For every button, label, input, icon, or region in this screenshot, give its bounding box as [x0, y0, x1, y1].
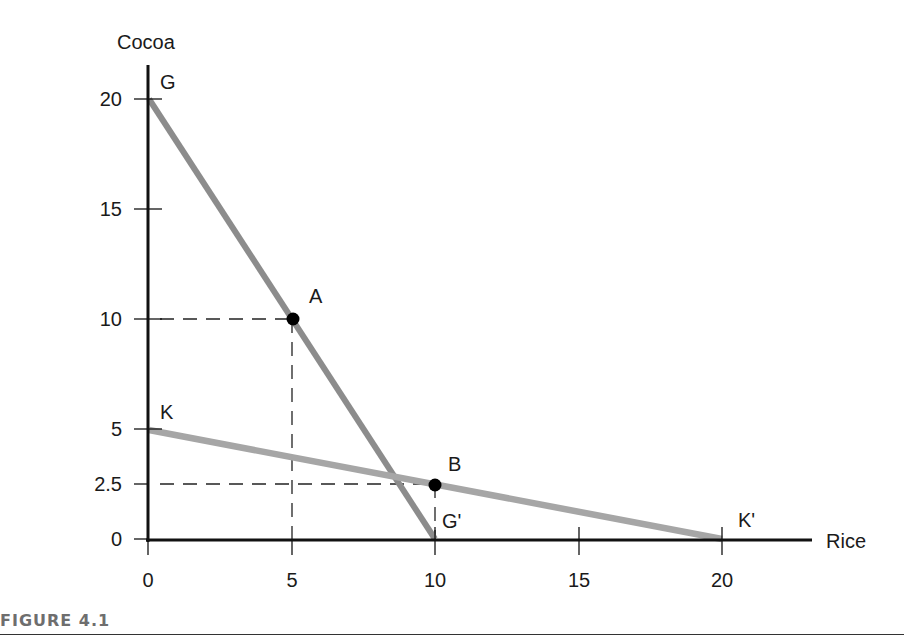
label-g-prime: G'	[442, 510, 461, 532]
label-k-prime: K'	[738, 509, 755, 531]
x-axis-title: Rice	[826, 530, 866, 552]
label-k: K	[160, 401, 174, 423]
caption-rule	[0, 634, 904, 635]
y-tick-label: 10	[100, 308, 122, 330]
x-tick-label: 10	[424, 569, 446, 591]
figure-caption: FIGURE 4.1	[0, 611, 110, 630]
point-b-label: B	[448, 453, 461, 475]
label-g: G	[160, 71, 176, 93]
y-tick-label: 2.5	[94, 473, 122, 495]
y-tick-label: 15	[100, 198, 122, 220]
x-tick-label: 0	[142, 569, 153, 591]
y-tick-label: 20	[100, 88, 122, 110]
guide-lines	[160, 319, 435, 539]
y-axis-title: Cocoa	[117, 31, 176, 53]
point-a-label: A	[309, 285, 323, 307]
x-tick-label: 20	[711, 569, 733, 591]
y-tick-label: 0	[111, 528, 122, 550]
chart-canvas: 20 15 10 5 2.5 0 0 5 10 15 20 Cocoa Rice…	[0, 0, 904, 644]
point-b-marker	[429, 479, 442, 492]
x-tick-label: 15	[568, 569, 590, 591]
x-tick-label: 5	[286, 569, 297, 591]
point-a-marker	[287, 313, 300, 326]
y-tick-label: 5	[111, 418, 122, 440]
